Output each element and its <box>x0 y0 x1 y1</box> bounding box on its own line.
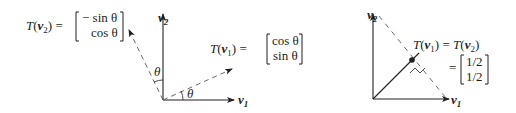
right-angle-marker <box>410 68 425 73</box>
svg-text:1/2: 1/2 <box>466 69 483 84</box>
svg-text:− sin θ: − sin θ <box>82 10 117 25</box>
svg-text:cos θ: cos θ <box>91 25 118 40</box>
svg-text:T(v2) =: T(v2) = <box>26 18 63 35</box>
svg-text:T(v1) =: T(v1) = <box>210 41 247 58</box>
right-panel: v1 v2 T(v1) = T(v2) = 1/2 1/2 <box>367 7 488 109</box>
left-panel: θ θ v1 v2 T(v2) = − sin θ cos θ T(v1) = … <box>26 10 302 109</box>
tv1-equation: T(v1) = cos θ sin θ <box>210 33 302 64</box>
svg-text:=: = <box>449 60 456 75</box>
v2-axis-label: v2 <box>158 10 169 27</box>
angle-arc-lower <box>181 91 183 100</box>
v1-axis-label: v1 <box>238 92 248 109</box>
projection-point <box>409 57 415 63</box>
svg-text:cos θ: cos θ <box>272 33 299 48</box>
v2-axis-label-right: v2 <box>367 7 378 24</box>
projection-equation: T(v1) = T(v2) = 1/2 1/2 <box>413 37 488 84</box>
tv2-equation: T(v2) = − sin θ cos θ <box>26 10 123 41</box>
angle-label-upper: θ <box>154 64 161 79</box>
rotation-projection-diagram: θ θ v1 v2 T(v2) = − sin θ cos θ T(v1) = … <box>0 0 516 113</box>
v1-axis-label-right: v1 <box>451 92 461 109</box>
svg-text:T(v1) = T(v2): T(v1) = T(v2) <box>413 37 479 54</box>
angle-label-lower: θ <box>187 86 194 101</box>
svg-text:sin θ: sin θ <box>273 48 298 63</box>
svg-text:1/2: 1/2 <box>466 54 483 69</box>
tv1-dashed-arrow <box>163 69 232 100</box>
projection-target-dashed-line <box>379 16 446 98</box>
angle-arc-upper <box>154 80 163 82</box>
